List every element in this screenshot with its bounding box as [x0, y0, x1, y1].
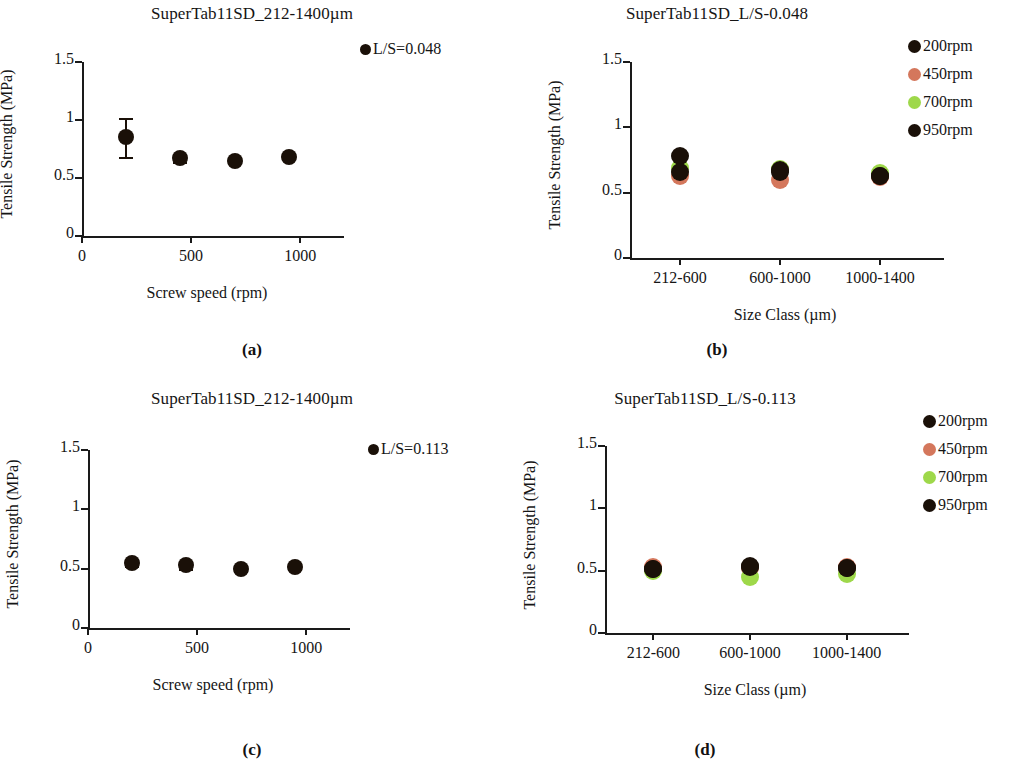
- x-tick-label: 1000: [261, 639, 351, 657]
- x-tick-mark: [81, 236, 83, 243]
- y-axis-line: [82, 62, 84, 236]
- y-axis-label: Tensile Strength (MPa): [521, 410, 539, 660]
- legend-item-label: 200rpm: [923, 37, 973, 55]
- legend-item: 700rpm: [908, 88, 973, 116]
- y-axis-line: [88, 450, 90, 628]
- panel-d: SuperTab11SD_L/S-0.113 200rpm450rpm700rp…: [505, 385, 1009, 769]
- x-tick-label: 0: [37, 247, 127, 265]
- y-tick-mark: [623, 192, 630, 194]
- legend-item: 700rpm: [923, 463, 988, 491]
- y-tick-label: 0.5: [26, 557, 80, 575]
- panel-b-legend: 200rpm450rpm700rpm950rpm: [908, 32, 973, 144]
- panel-d-letter: (d): [453, 740, 957, 760]
- data-point: [838, 559, 856, 577]
- x-tick-label: 1000-1400: [792, 644, 902, 662]
- y-tick-label: 1.5: [568, 50, 622, 68]
- y-axis-line: [630, 62, 632, 258]
- y-tick-label: 0: [568, 246, 622, 264]
- legend-item: 950rpm: [908, 116, 973, 144]
- legend-item-label: 700rpm: [923, 93, 973, 111]
- y-axis-label: Tensile Strength (MPa): [0, 19, 16, 269]
- y-tick-mark: [598, 570, 605, 572]
- data-point: [771, 163, 789, 181]
- y-tick-mark: [81, 449, 88, 451]
- y-tick-label: 1.5: [543, 434, 597, 452]
- data-point: [281, 149, 297, 165]
- panel-a-title: SuperTab11SD_212-1400µm: [0, 4, 504, 24]
- data-point: [172, 150, 188, 166]
- legend-dot-icon: [908, 124, 921, 137]
- y-tick-label: 0.5: [20, 166, 74, 184]
- data-point: [124, 555, 140, 571]
- x-axis-label: Screw speed (rpm): [42, 284, 372, 302]
- y-tick-label: 0.5: [568, 181, 622, 199]
- panel-c-letter: (c): [0, 740, 504, 760]
- legend-item-label: 200rpm: [938, 412, 988, 430]
- panel-d-title: SuperTab11SD_L/S-0.113: [453, 389, 957, 409]
- x-tick-mark: [652, 633, 654, 640]
- y-tick-mark: [623, 61, 630, 63]
- x-axis-label: Screw speed (rpm): [48, 676, 378, 694]
- x-tick-label: 1000-1400: [825, 269, 935, 287]
- data-point: [233, 561, 249, 577]
- panel-a: SuperTab11SD_212-1400µm L/S=0.048 00.511…: [0, 0, 504, 384]
- x-tick-label: 600-1000: [695, 644, 805, 662]
- legend-item-label: 700rpm: [938, 468, 988, 486]
- y-tick-mark: [598, 632, 605, 634]
- y-tick-mark: [623, 126, 630, 128]
- panel-c: SuperTab11SD_212-1400µm L/S=0.113 00.511…: [0, 385, 504, 769]
- y-tick-mark: [75, 119, 82, 121]
- x-axis-line: [605, 633, 909, 635]
- legend-item-label: 950rpm: [938, 496, 988, 514]
- x-tick-label: 600-1000: [725, 269, 835, 287]
- y-tick-mark: [598, 445, 605, 447]
- y-axis-label: Tensile Strength (MPa): [546, 30, 564, 280]
- data-point: [178, 557, 194, 573]
- x-tick-mark: [749, 633, 751, 640]
- panel-a-legend-label: L/S=0.048: [373, 40, 441, 58]
- x-tick-mark: [299, 236, 301, 243]
- data-point: [287, 559, 303, 575]
- panel-c-legend: L/S=0.113: [368, 440, 449, 458]
- panel-a-legend: L/S=0.048: [360, 40, 441, 58]
- legend-item-label: 950rpm: [923, 121, 973, 139]
- panel-a-letter: (a): [0, 340, 504, 360]
- x-axis-line: [630, 258, 944, 260]
- x-tick-mark: [846, 633, 848, 640]
- x-tick-label: 212-600: [598, 644, 708, 662]
- y-tick-label: 1: [543, 496, 597, 514]
- legend-item: 450rpm: [923, 435, 988, 463]
- y-tick-mark: [598, 507, 605, 509]
- x-tick-label: 500: [146, 247, 236, 265]
- legend-item: 200rpm: [923, 407, 988, 435]
- y-tick-label: 0: [543, 621, 597, 639]
- y-tick-mark: [81, 508, 88, 510]
- data-point: [871, 167, 889, 185]
- legend-dot-icon: [923, 471, 936, 484]
- legend-dot-icon: [908, 68, 921, 81]
- y-tick-label: 1: [26, 497, 80, 515]
- x-tick-mark: [679, 258, 681, 265]
- legend-dot-icon: [923, 415, 936, 428]
- y-axis-line: [605, 446, 607, 633]
- y-tick-mark: [75, 61, 82, 63]
- y-tick-label: 1.5: [26, 438, 80, 456]
- legend-dot-icon: [923, 499, 936, 512]
- legend-dot-icon: [368, 444, 379, 455]
- legend-item-label: 450rpm: [938, 440, 988, 458]
- y-tick-mark: [81, 568, 88, 570]
- data-point: [227, 153, 243, 169]
- x-tick-mark: [779, 258, 781, 265]
- x-tick-label: 0: [43, 639, 133, 657]
- y-axis-label: Tensile Strength (MPa): [4, 409, 22, 659]
- error-bar-cap: [119, 157, 133, 159]
- y-tick-mark: [623, 257, 630, 259]
- x-axis-label: Size Class (µm): [575, 681, 935, 699]
- legend-item: 450rpm: [908, 60, 973, 88]
- x-tick-mark: [190, 236, 192, 243]
- x-axis-label: Size Class (µm): [600, 306, 970, 324]
- x-tick-label: 212-600: [625, 269, 735, 287]
- x-tick-label: 1000: [255, 247, 345, 265]
- y-tick-label: 1.5: [20, 50, 74, 68]
- data-point: [118, 129, 134, 145]
